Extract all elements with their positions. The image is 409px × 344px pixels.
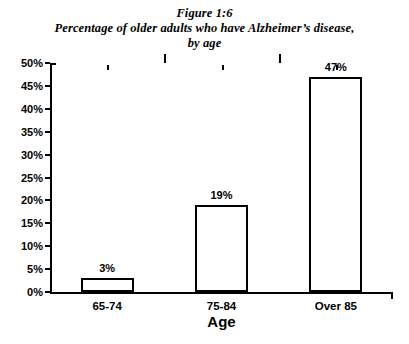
y-axis-tick-label: 35% — [21, 126, 43, 137]
x-axis-end-cap — [391, 292, 393, 299]
x-axis-category-label: Over 85 — [315, 301, 357, 313]
bar-75-84 — [195, 205, 248, 292]
y-axis-tick-label: 25% — [21, 172, 43, 183]
bar-value-label: 47% — [325, 62, 347, 73]
y-axis-tick-label: 15% — [21, 218, 43, 229]
y-axis-tick-mark — [45, 62, 50, 64]
y-axis-tick-mark — [45, 245, 50, 247]
y-axis-tick-label: 50% — [21, 58, 43, 69]
plot-area: 0%5%10%15%20%25%30%35%40%45%50% 3%19%47%… — [50, 63, 393, 292]
y-axis-top-cap — [50, 63, 56, 65]
figure-title-line-1: Figure 1:6 — [0, 6, 409, 21]
y-axis-tick-mark — [45, 199, 50, 201]
figure-title-line-3: by age — [0, 36, 409, 51]
y-axis-tick-mark — [45, 131, 50, 133]
y-axis-tick-mark — [45, 85, 50, 87]
y-axis-tick-label: 5% — [27, 264, 43, 275]
y-axis-tick-label: 10% — [21, 241, 43, 252]
y-axis-tick-mark — [45, 108, 50, 110]
y-axis-tick-mark — [45, 291, 50, 293]
y-axis-tick-label: 30% — [21, 149, 43, 160]
bar-value-label: 3% — [99, 263, 115, 274]
y-axis-tick-mark — [45, 177, 50, 179]
y-axis-tick-label: 0% — [27, 287, 43, 298]
x-axis-title: Age — [50, 314, 393, 329]
chart-figure: Figure 1:6 Percentage of older adults wh… — [0, 0, 409, 344]
x-axis-separator-tick — [279, 54, 281, 63]
x-axis-separator-tick — [164, 54, 166, 63]
x-axis-category-label: 75-84 — [207, 301, 236, 313]
y-axis-tick-mark — [45, 154, 50, 156]
bar-over-85 — [309, 77, 362, 292]
x-axis-center-tick — [107, 65, 109, 70]
bar-value-label: 19% — [210, 190, 232, 201]
y-axis-tick-label: 45% — [21, 80, 43, 91]
figure-title-line-2: Percentage of older adults who have Alzh… — [0, 21, 409, 36]
y-axis-tick-mark — [45, 222, 50, 224]
y-axis-tick-label: 20% — [21, 195, 43, 206]
x-axis-line — [50, 292, 393, 294]
y-axis-line — [50, 63, 52, 292]
y-axis-tick-label: 40% — [21, 103, 43, 114]
x-axis-center-tick — [222, 65, 224, 70]
x-axis-category-label: 65-74 — [92, 301, 121, 313]
y-axis-tick-mark — [45, 268, 50, 270]
figure-title: Figure 1:6 Percentage of older adults wh… — [0, 6, 409, 51]
bar-65-74 — [81, 278, 134, 292]
